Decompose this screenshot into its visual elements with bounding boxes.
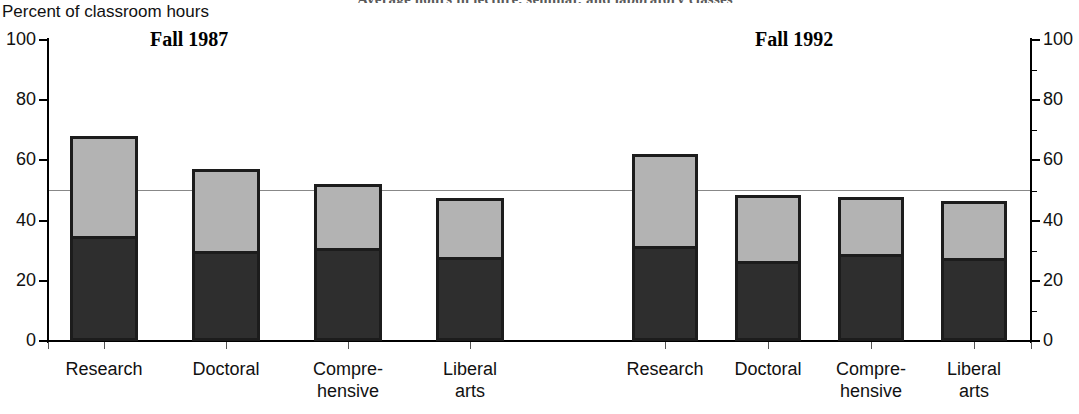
y-minor-tick-right-30 bbox=[1032, 251, 1037, 252]
chart-container: Average hours in lecture, seminar, and l… bbox=[0, 0, 1079, 414]
y-label-right-40: 40 bbox=[1043, 210, 1079, 231]
bar-segment-lower bbox=[314, 251, 382, 341]
x-tick bbox=[871, 342, 872, 349]
y-label-right-100: 100 bbox=[1043, 29, 1079, 50]
y-label-right-60: 60 bbox=[1043, 149, 1079, 170]
x-tick bbox=[470, 342, 471, 349]
y-tick-right-60 bbox=[1032, 159, 1040, 161]
x-tick bbox=[226, 342, 227, 349]
x-category-label-liberal-arts: Liberal arts bbox=[914, 358, 1034, 402]
x-tick-edge bbox=[48, 342, 49, 349]
bar-segment-lower bbox=[632, 249, 698, 341]
y-label-left-60: 60 bbox=[0, 149, 36, 170]
bar-fall-1987-doctoral bbox=[192, 169, 260, 341]
bar-fall-1992-liberal-arts bbox=[941, 201, 1007, 341]
bar-segment-upper bbox=[632, 154, 698, 249]
bar-fall-1992-comprehensive bbox=[838, 197, 904, 341]
bar-segment-upper bbox=[941, 201, 1007, 261]
bar-segment-lower bbox=[70, 239, 138, 341]
x-tick-edge bbox=[1031, 342, 1032, 349]
y-minor-tick-right-90 bbox=[1032, 70, 1037, 71]
y-tick-left-60 bbox=[39, 159, 47, 161]
y-minor-tick-right-70 bbox=[1032, 130, 1037, 131]
bar-segment-upper bbox=[314, 184, 382, 250]
bar-segment-lower bbox=[192, 254, 260, 341]
x-category-label-doctoral: Doctoral bbox=[708, 358, 828, 380]
x-tick bbox=[348, 342, 349, 349]
bar-fall-1987-research bbox=[70, 136, 138, 341]
bar-segment-lower bbox=[838, 257, 904, 341]
chart-title-cropped: Average hours in lecture, seminar, and l… bbox=[205, 0, 885, 3]
x-tick bbox=[974, 342, 975, 349]
bar-fall-1992-research bbox=[632, 154, 698, 341]
y-tick-right-20 bbox=[1032, 280, 1040, 282]
y-tick-right-40 bbox=[1032, 220, 1040, 222]
y-tick-left-80 bbox=[39, 99, 47, 101]
y-label-left-80: 80 bbox=[0, 89, 36, 110]
bar-segment-lower bbox=[735, 264, 801, 341]
x-category-label-comprehensive: Compre- hensive bbox=[811, 358, 931, 402]
x-category-label-research: Research bbox=[605, 358, 725, 380]
y-tick-right-100 bbox=[1032, 39, 1040, 41]
y-minor-tick-right-10 bbox=[1032, 311, 1037, 312]
y-label-left-0: 0 bbox=[0, 330, 36, 351]
y-minor-tick-right-50 bbox=[1032, 191, 1037, 192]
bar-segment-upper bbox=[192, 169, 260, 253]
y-tick-right-80 bbox=[1032, 99, 1040, 101]
panel-label-fall-1992: Fall 1992 bbox=[755, 28, 833, 51]
bar-segment-upper bbox=[735, 195, 801, 264]
bar-fall-1987-comprehensive bbox=[314, 184, 382, 341]
bar-segment-upper bbox=[436, 198, 504, 260]
y-tick-left-20 bbox=[39, 280, 47, 282]
bar-fall-1992-doctoral bbox=[735, 195, 801, 341]
y-tick-left-40 bbox=[39, 220, 47, 222]
y-tick-left-100 bbox=[39, 39, 47, 41]
y-label-right-80: 80 bbox=[1043, 89, 1079, 110]
x-category-label-research: Research bbox=[44, 358, 164, 380]
y-label-right-20: 20 bbox=[1043, 270, 1079, 291]
x-tick bbox=[665, 342, 666, 349]
x-category-label-comprehensive: Compre- hensive bbox=[288, 358, 408, 402]
bar-fall-1987-liberal-arts bbox=[436, 198, 504, 341]
y-label-left-20: 20 bbox=[0, 270, 36, 291]
bar-segment-lower bbox=[436, 260, 504, 341]
bar-segment-lower bbox=[941, 261, 1007, 341]
x-tick bbox=[104, 342, 105, 349]
y-tick-left-0 bbox=[39, 340, 47, 342]
bar-segment-upper bbox=[70, 136, 138, 238]
panel-label-fall-1987: Fall 1987 bbox=[150, 28, 228, 51]
x-category-label-doctoral: Doctoral bbox=[166, 358, 286, 380]
y-label-left-100: 100 bbox=[0, 29, 36, 50]
y-label-right-0: 0 bbox=[1043, 330, 1079, 351]
x-category-label-liberal-arts: Liberal arts bbox=[410, 358, 530, 402]
bar-segment-upper bbox=[838, 197, 904, 257]
y-axis-title: Percent of classroom hours bbox=[2, 2, 209, 22]
x-tick bbox=[768, 342, 769, 349]
y-label-left-40: 40 bbox=[0, 210, 36, 231]
y-tick-right-0 bbox=[1032, 340, 1040, 342]
